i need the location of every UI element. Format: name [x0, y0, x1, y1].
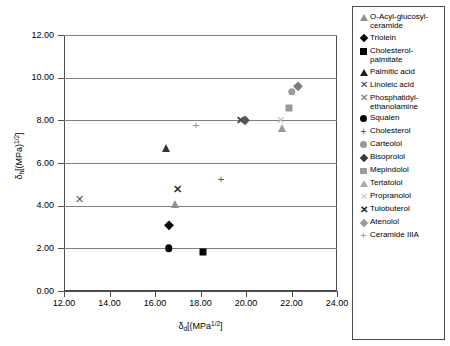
legend-item-label: Phosphatidyl- ethanolamine	[370, 93, 441, 112]
legend-item-palmitic-acid[interactable]: Palmitic acid	[357, 67, 441, 78]
legend-item-ceramide-iiia[interactable]: +Ceramide IIIA	[357, 230, 441, 241]
legend-item-label: Mepindolol	[370, 165, 441, 174]
legend-marker-icon	[357, 165, 370, 176]
y-tick-label-5: 10.00	[8, 73, 54, 82]
data-point-palmitic-acid	[162, 144, 170, 152]
chart-root: 0.002.004.006.008.0010.0012.00 12.0014.0…	[0, 0, 450, 346]
legend-marker-icon	[357, 46, 370, 57]
x-tick-mark-0	[64, 291, 65, 297]
legend-marker-icon	[357, 152, 370, 163]
data-point-ceramide-iiia: +	[193, 119, 199, 130]
legend-item-label: Propranolol	[370, 191, 441, 200]
y-axis-title-symbol: δ	[14, 175, 24, 180]
gridline-y-3	[64, 163, 337, 164]
legend-item-mepindolol[interactable]: Mepindolol	[357, 165, 441, 176]
legend-item-label: Cholesterol- palmitate	[370, 46, 441, 65]
legend-marker-icon: ✕	[357, 191, 370, 202]
data-point-triolein	[165, 222, 172, 229]
legend-item-label: Tertatolol	[370, 178, 441, 187]
legend-item-label: Carteolol	[370, 139, 441, 148]
x-tick-label-4: 20.00	[224, 299, 268, 308]
legend-item-label: O-Acyl-glucosyl- ceramide	[370, 12, 441, 31]
data-point-squalen	[165, 245, 173, 253]
y-tick-mark-3	[58, 163, 64, 164]
legend-marker-icon: +	[357, 230, 370, 241]
y-tick-mark-5	[58, 78, 64, 79]
y-axis-title-subscript: h	[18, 171, 25, 175]
x-tick-label-1: 14.00	[88, 299, 132, 308]
legend-item-bisoprolol[interactable]: Bisoprolol	[357, 152, 441, 163]
x-tick-label-2: 16.00	[133, 299, 177, 308]
legend-item-carteolol[interactable]: Carteolol	[357, 139, 441, 150]
legend-item-label: Bisoprolol	[370, 152, 441, 161]
x-axis-title-exponent: 1/2	[211, 320, 220, 327]
y-tick-mark-1	[58, 248, 64, 249]
data-point-bisoprolol	[295, 83, 302, 90]
legend-marker-icon	[357, 12, 370, 23]
y-axis-title-unit: [(MPa)	[14, 144, 24, 171]
x-tick-mark-6	[337, 291, 338, 297]
gridline-y-5	[64, 78, 337, 79]
legend-marker-icon: ✕	[357, 80, 370, 91]
x-tick-mark-4	[246, 291, 247, 297]
legend-item-cholesterol-palmitate[interactable]: Cholesterol- palmitate	[357, 46, 441, 65]
data-point-phosphatidyl-ethanolamine: ✕	[173, 183, 182, 194]
data-point-cholesterol-palmitate	[199, 248, 206, 255]
gridline-y-2	[64, 206, 337, 207]
gridline-y-4	[64, 120, 337, 121]
data-point-atenolol	[242, 117, 249, 124]
y-tick-mark-4	[58, 120, 64, 121]
data-point-mepindolol	[286, 104, 293, 111]
legend-marker-icon	[357, 217, 370, 228]
legend-marker-icon: ✕	[357, 93, 370, 104]
y-tick-label-0: 0.00	[8, 287, 54, 296]
x-tick-label-0: 12.00	[42, 299, 86, 308]
legend-marker-icon: ✕	[357, 204, 370, 215]
legend-marker-icon	[357, 67, 370, 78]
data-point-linoleic-acid: ✕	[75, 194, 84, 205]
y-axis-title: δh[(MPa)1/2]	[13, 101, 25, 211]
data-point-cholesterol: +	[218, 174, 224, 185]
legend-marker-icon	[357, 178, 370, 189]
legend-item-label: Atenolol	[370, 217, 441, 226]
legend-item-squalen[interactable]: Squalen	[357, 113, 441, 124]
legend-item-tulobuterol[interactable]: ✕Tulobuterol	[357, 204, 441, 215]
x-tick-mark-1	[110, 291, 111, 297]
legend-item-propranolol[interactable]: ✕Propranolol	[357, 191, 441, 202]
legend-marker-icon	[357, 113, 370, 124]
x-axis-title: δd[(MPa1/2]	[64, 320, 337, 332]
legend-item-label: Squalen	[370, 113, 441, 122]
legend-item-o-acyl-glucosyl-ceramide[interactable]: O-Acyl-glucosyl- ceramide	[357, 12, 441, 31]
y-tick-mark-2	[58, 206, 64, 207]
x-tick-mark-5	[292, 291, 293, 297]
data-point-propranolol: ✕	[276, 115, 285, 126]
legend-item-atenolol[interactable]: Atenolol	[357, 217, 441, 228]
legend-item-label: Cholesterol	[370, 126, 441, 135]
x-tick-mark-2	[155, 291, 156, 297]
legend-item-label: Ceramide IIIA	[370, 230, 441, 239]
x-axis-title-unit: [(MPa	[187, 321, 211, 331]
y-tick-label-1: 2.00	[8, 244, 54, 253]
legend-box: O-Acyl-glucosyl- ceramideTrioleinCholest…	[352, 6, 445, 340]
legend-marker-icon	[357, 33, 370, 44]
x-tick-label-5: 22.00	[270, 299, 314, 308]
y-axis-title-exponent: 1/2	[13, 135, 20, 144]
legend-marker-icon	[357, 139, 370, 150]
legend-item-cholesterol[interactable]: +Cholesterol	[357, 126, 441, 137]
legend-item-phosphatidyl-ethanolamine[interactable]: ✕Phosphatidyl- ethanolamine	[357, 93, 441, 112]
legend-items: O-Acyl-glucosyl- ceramideTrioleinCholest…	[357, 12, 441, 241]
legend-item-triolein[interactable]: Triolein	[357, 33, 441, 44]
legend-item-label: Triolein	[370, 33, 441, 42]
legend-item-linoleic-acid[interactable]: ✕Linoleic acid	[357, 80, 441, 91]
y-tick-label-6: 12.00	[8, 31, 54, 40]
legend-item-label: Palmitic acid	[370, 67, 441, 76]
data-point-o-acyl-glucosyl-ceramide	[171, 200, 179, 208]
x-tick-label-3: 18.00	[179, 299, 223, 308]
x-tick-mark-3	[201, 291, 202, 297]
y-tick-mark-6	[58, 35, 64, 36]
legend-item-tertatolol[interactable]: Tertatolol	[357, 178, 441, 189]
legend-item-label: Tulobuterol	[370, 204, 441, 213]
gridline-y-6	[64, 35, 337, 36]
legend-item-label: Linoleic acid	[370, 80, 441, 89]
legend-marker-icon: +	[357, 126, 370, 137]
